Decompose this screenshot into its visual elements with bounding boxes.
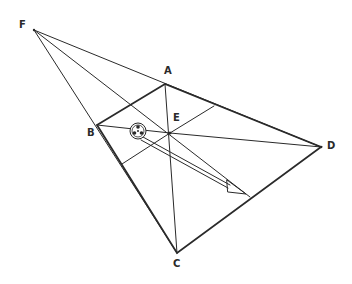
line-e-bc-mid [122,133,170,164]
line-e-d [170,133,321,147]
soccer-ball-icon [130,123,146,139]
geometry-diagram [0,0,352,284]
point-f [33,29,35,31]
label-b: B [87,128,95,138]
arrow-icon [141,137,246,194]
label-e: E [173,113,180,123]
label-c: C [173,259,180,269]
point-d [320,146,323,149]
line-f-cd [34,30,250,197]
label-d: D [327,141,335,151]
label-f: F [19,20,26,30]
point-e [169,132,172,135]
line-a-c [165,84,177,253]
label-a: A [164,66,172,76]
